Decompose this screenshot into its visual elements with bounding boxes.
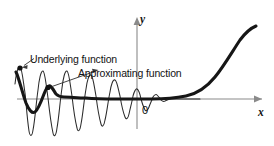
x-axis-label: x	[258, 107, 264, 119]
underlying-callout-dot	[17, 65, 22, 70]
underlying-function-label: Underlying function	[30, 54, 117, 65]
approximating-function-label: Approximating function	[78, 68, 182, 79]
origin-label: 0	[142, 105, 148, 116]
x-axis-arrowhead-icon	[254, 96, 262, 103]
approximating-callout-dot	[45, 85, 50, 90]
figure-canvas: Underlying function Approximating functi…	[0, 0, 274, 146]
y-axis-label: y	[140, 14, 145, 26]
